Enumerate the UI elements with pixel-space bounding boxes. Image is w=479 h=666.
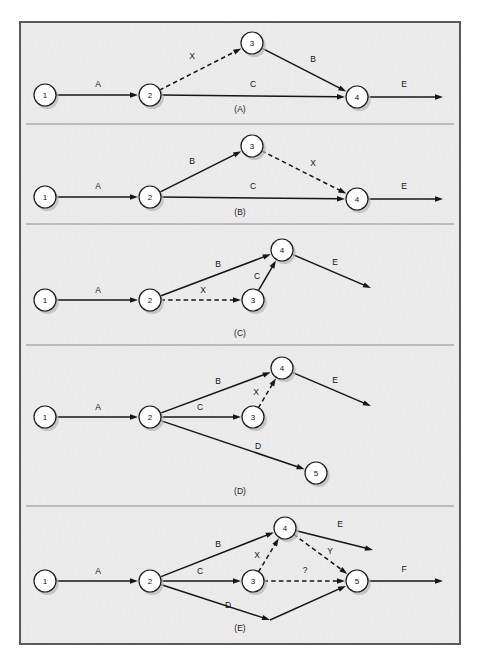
edge-label-E-E: E bbox=[337, 519, 343, 529]
panel-caption-D: (D) bbox=[234, 486, 246, 496]
edge-label-A-A: A bbox=[95, 79, 101, 89]
edge-label-A-B: B bbox=[310, 54, 316, 64]
edge-label-C-X: X bbox=[200, 285, 206, 295]
edge-label-E-Y: Y bbox=[327, 546, 333, 556]
panel-caption-C: (C) bbox=[234, 328, 246, 338]
edge-label-E-X: X bbox=[254, 550, 260, 560]
edge-label-E-B: B bbox=[215, 539, 221, 549]
node-label: 4 bbox=[280, 364, 285, 373]
edge-label-B-A: A bbox=[95, 181, 101, 191]
edge-label-D-D: D bbox=[255, 441, 261, 451]
edge-label-C-E: E bbox=[332, 257, 338, 267]
edge-label-C-C: C bbox=[254, 271, 260, 281]
node-label: 2 bbox=[148, 91, 153, 100]
edge-label-D-E: E bbox=[332, 375, 338, 385]
edge-label-D-B: B bbox=[215, 376, 221, 386]
node-label: 1 bbox=[43, 193, 48, 202]
edge-label-C-A: A bbox=[95, 285, 101, 295]
edge-label-E-D: D bbox=[225, 600, 231, 610]
panel-caption-A: (A) bbox=[234, 104, 246, 114]
edge-label-B-X: X bbox=[310, 158, 316, 168]
network-diagram-figure: 1234123412341234512345 AXBCEABXCEAXBCEAB… bbox=[0, 0, 479, 666]
node-label: 4 bbox=[355, 195, 360, 204]
edge-label-D-X: X bbox=[253, 387, 259, 397]
node-label: 4 bbox=[283, 524, 288, 533]
node-label: 5 bbox=[314, 469, 319, 478]
node-label: 5 bbox=[355, 577, 360, 586]
edge-label-D-C: C bbox=[197, 402, 203, 412]
node-label: 2 bbox=[148, 577, 153, 586]
edge-label-A-C: C bbox=[250, 79, 256, 89]
edge-label-A-X: X bbox=[189, 51, 195, 61]
edge-label-E-?: ? bbox=[303, 565, 308, 575]
node-label: 4 bbox=[280, 246, 285, 255]
node-label: 3 bbox=[250, 142, 255, 151]
edge-label-E-A: A bbox=[95, 566, 101, 576]
edge-label-B-C: C bbox=[250, 181, 256, 191]
node-label: 3 bbox=[251, 296, 256, 305]
panel-caption-E: (E) bbox=[234, 623, 246, 633]
edge-label-B-B: B bbox=[189, 156, 195, 166]
node-label: 2 bbox=[148, 193, 153, 202]
node-label: 1 bbox=[43, 413, 48, 422]
node-label: 1 bbox=[43, 91, 48, 100]
edge-label-D-A: A bbox=[95, 402, 101, 412]
edge-label-E-C: C bbox=[197, 566, 203, 576]
node-label: 3 bbox=[251, 413, 256, 422]
node-label: 4 bbox=[355, 93, 360, 102]
edge-label-A-E: E bbox=[401, 79, 407, 89]
node-label: 3 bbox=[251, 577, 256, 586]
node-label: 3 bbox=[250, 39, 255, 48]
edge-label-B-E: E bbox=[401, 181, 407, 191]
edge-label-C-B: B bbox=[215, 259, 221, 269]
node-label: 1 bbox=[43, 296, 48, 305]
edge-label-E-F: F bbox=[401, 564, 406, 574]
node-label: 2 bbox=[148, 413, 153, 422]
panel-caption-B: (B) bbox=[234, 207, 246, 217]
figure-container: 1234123412341234512345 AXBCEABXCEAXBCEAB… bbox=[0, 0, 479, 666]
node-label: 1 bbox=[43, 577, 48, 586]
node-label: 2 bbox=[148, 296, 153, 305]
